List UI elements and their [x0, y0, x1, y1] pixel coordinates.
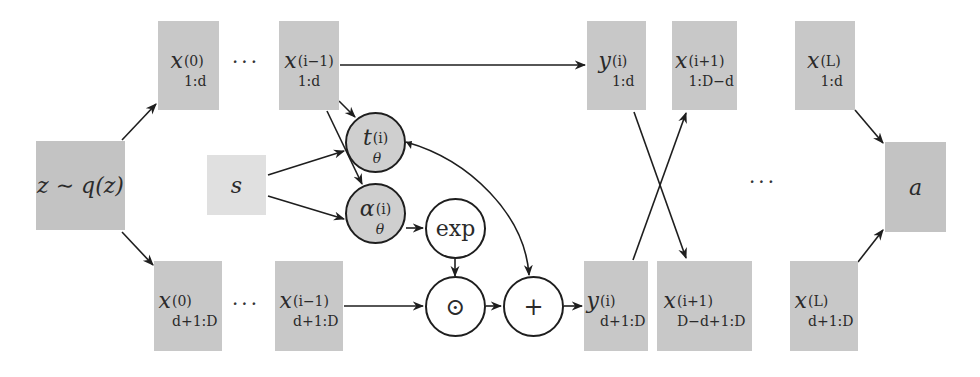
xim1-bottom-base: x: [280, 288, 292, 313]
action-label: a: [909, 175, 922, 200]
edge-latent-to-x0-bottom: [122, 232, 153, 265]
xim1-bottom-box: x (i−1)d+1:D: [275, 261, 343, 351]
xip1-bottom-base: x: [664, 288, 676, 313]
xL-bottom-sub: d+1:D: [808, 314, 854, 328]
xip1-top-base: x: [675, 48, 687, 73]
ellipsis-bottom-left: ···: [232, 292, 260, 316]
t-network-node: t (i)θ: [345, 112, 406, 173]
alpha-sup: (i): [376, 202, 391, 216]
exp-op-node: exp: [425, 198, 486, 259]
alpha-base: α: [360, 196, 375, 221]
edge-state-to-alpha: [268, 196, 344, 219]
state-box: s: [207, 155, 266, 215]
plus-icon: +: [523, 293, 543, 321]
x0-top-sub: 1:d: [184, 74, 207, 88]
x0-bottom-sup: (0): [172, 294, 218, 308]
xim1-top-box: x (i−1)1:d: [279, 21, 339, 110]
xip1-top-sup: (i+1): [688, 54, 734, 68]
latent-box: z ∼ q(z): [36, 141, 125, 230]
xip1-bottom-sup: (i+1): [677, 294, 746, 308]
xL-top-sup: (L): [820, 54, 843, 68]
edge-state-to-t: [268, 151, 344, 175]
t-sup: (i): [373, 131, 388, 145]
t-base: t: [363, 125, 372, 150]
alpha-sub: θ: [376, 222, 391, 236]
xim1-bottom-sup: (i−1): [293, 294, 339, 308]
xL-top-sub: 1:d: [820, 74, 843, 88]
hadamard-op-node: ⊙: [425, 276, 486, 337]
edge-t-arrow-tail: [406, 141, 412, 149]
yi-top-base: y: [598, 48, 610, 73]
yi-top-sup: (i): [612, 54, 635, 68]
xL-bottom-sup: (L): [808, 294, 854, 308]
state-label: s: [231, 173, 242, 198]
action-box: a: [885, 142, 946, 232]
yi-bottom-sup: (i): [600, 294, 646, 308]
xip1-bottom-box: x (i+1)D−d+1:D: [657, 261, 752, 351]
edge-xL-top-to-action: [855, 110, 883, 143]
xim1-top-base: x: [284, 48, 296, 73]
xip1-bottom-sub: D−d+1:D: [677, 314, 746, 328]
yi-bottom-sub: d+1:D: [600, 314, 646, 328]
ellipsis-right-middle: ···: [749, 170, 777, 194]
exp-label: exp: [436, 216, 476, 241]
xip1-top-sub: 1:D−d: [688, 74, 734, 88]
x0-top-sup: (0): [184, 54, 207, 68]
xim1-bottom-sub: d+1:D: [293, 314, 339, 328]
alpha-network-node: α (i)θ: [345, 183, 406, 244]
xL-bottom-base: x: [795, 288, 807, 313]
yi-top-box: y (i)1:d: [587, 21, 646, 110]
ellipsis-top-left: ···: [232, 50, 260, 74]
x0-bottom-box: x (0)d+1:D: [154, 261, 222, 351]
edge-xL-bottom-to-action: [858, 230, 883, 262]
latent-label: z ∼ q(z): [37, 173, 124, 198]
plus-op-node: +: [503, 276, 564, 337]
t-sub: θ: [373, 151, 388, 165]
edge-xim1-top-to-t: [339, 101, 355, 117]
xim1-top-sub: 1:d: [298, 74, 334, 88]
xL-top-base: x: [807, 48, 819, 73]
xL-bottom-box: x (L)d+1:D: [790, 261, 858, 351]
x0-bottom-sub: d+1:D: [172, 314, 218, 328]
edge-latent-to-x0-top: [122, 104, 156, 140]
x0-top-base: x: [170, 48, 182, 73]
xip1-top-box: x (i+1)1:D−d: [672, 21, 737, 110]
yi-bottom-box: y (i)d+1:D: [584, 261, 648, 351]
xL-top-box: x (L)1:d: [795, 21, 855, 110]
hadamard-icon: ⊙: [445, 293, 465, 321]
xim1-top-sup: (i−1): [298, 54, 334, 68]
x0-bottom-base: x: [159, 288, 171, 313]
yi-bottom-base: y: [587, 288, 599, 313]
x0-top-box: x (0)1:d: [158, 21, 219, 110]
yi-top-sub: 1:d: [612, 74, 635, 88]
